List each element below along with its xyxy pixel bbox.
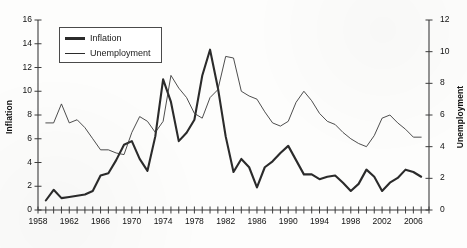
series-line-inflation — [46, 50, 421, 201]
plot-area — [0, 0, 467, 248]
series-line-unemployment — [46, 56, 421, 154]
inflation-unemployment-chart: Inflation Unemployment 0246810121416 024… — [0, 0, 467, 248]
